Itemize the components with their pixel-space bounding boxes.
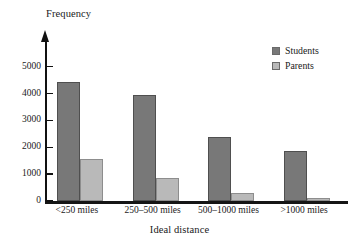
bar-parents-1 [156, 178, 179, 201]
legend-label: Parents [285, 61, 314, 71]
y-axis-arrow-icon [41, 30, 49, 42]
y-tick-label-wrap: 3000 [8, 120, 41, 121]
y-tick-label-wrap: 1000 [8, 174, 41, 175]
legend-swatch-icon [272, 47, 280, 55]
bar-students-0 [57, 82, 80, 201]
x-tick-label-1: 250–500 miles [115, 206, 191, 216]
legend: StudentsParents [272, 44, 319, 74]
y-tick-label-0: 0 [36, 196, 41, 206]
bar-parents-2 [231, 193, 254, 201]
y-tick-label-5000: 5000 [22, 62, 41, 72]
legend-swatch-icon [272, 62, 280, 70]
bar-students-3 [284, 151, 307, 201]
y-tick-label-1000: 1000 [22, 169, 41, 179]
x-tick-label-0: <250 miles [39, 206, 115, 216]
bar-parents-0 [80, 159, 103, 201]
legend-item-parents: Parents [272, 59, 319, 72]
y-tick-label-wrap: 2000 [8, 147, 41, 148]
y-axis-title: Frequency [46, 8, 91, 19]
bars-layer [45, 56, 348, 201]
bar-parents-3 [307, 198, 330, 201]
x-tick-label-2: 500–1000 miles [191, 206, 267, 216]
bar-students-1 [133, 95, 156, 201]
x-tick-label-3: >1000 miles [266, 206, 342, 216]
bar-chart: Frequency 010002000300040005000 <250 mil… [0, 0, 359, 249]
y-tick-label-2000: 2000 [22, 142, 41, 152]
x-axis-title: Ideal distance [0, 224, 359, 235]
y-tick-label-3000: 3000 [22, 115, 41, 125]
y-tick-label-4000: 4000 [22, 89, 41, 99]
bar-students-2 [208, 137, 231, 201]
y-tick-label-wrap: 0 [8, 201, 41, 202]
legend-item-students: Students [272, 44, 319, 57]
y-tick-label-wrap: 4000 [8, 94, 41, 95]
y-tick-label-wrap: 5000 [8, 67, 41, 68]
x-axis-line [45, 201, 348, 204]
legend-label: Students [285, 46, 319, 56]
